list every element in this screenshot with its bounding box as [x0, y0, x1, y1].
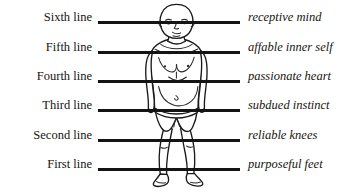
- left-label-second: Second line: [0, 129, 92, 142]
- body-lines-diagram: Sixth line receptive mind Fifth line aff…: [0, 0, 354, 193]
- right-label-sixth: receptive mind: [248, 11, 321, 24]
- rule-first: [98, 168, 240, 171]
- right-label-third: subdued instinct: [248, 99, 330, 112]
- rule-second: [98, 139, 240, 142]
- right-label-fifth: affable inner self: [248, 41, 333, 54]
- right-label-first: purposeful feet: [248, 158, 323, 171]
- left-label-third: Third line: [0, 99, 92, 112]
- right-label-fourth: passionate heart: [248, 70, 331, 83]
- right-label-second: reliable knees: [248, 129, 317, 142]
- rule-third: [98, 109, 240, 112]
- left-label-first: First line: [0, 158, 92, 171]
- rule-fourth: [98, 80, 240, 83]
- left-label-fifth: Fifth line: [0, 41, 92, 54]
- left-label-fourth: Fourth line: [0, 70, 92, 83]
- left-label-sixth: Sixth line: [0, 11, 92, 24]
- rule-fifth: [98, 51, 240, 54]
- rule-sixth: [98, 21, 240, 24]
